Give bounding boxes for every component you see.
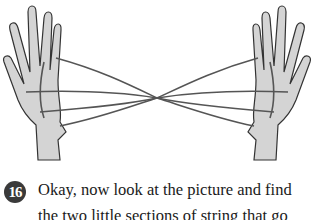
instruction-text-line-2: the two little sections of string that g…	[38, 206, 288, 220]
left-hand	[4, 6, 66, 160]
string-figure-illustration	[0, 0, 314, 178]
right-hand	[248, 6, 310, 160]
instruction-text-line-1: Okay, now look at the picture and find	[38, 180, 292, 200]
step-number-badge: 16	[4, 181, 26, 203]
